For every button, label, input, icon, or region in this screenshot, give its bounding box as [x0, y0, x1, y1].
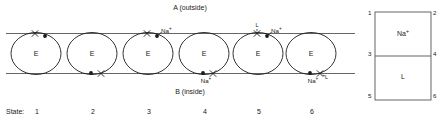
- legend-box: [375, 12, 431, 100]
- enzyme-symbol-3: E: [146, 50, 151, 57]
- state-number-1: 1: [35, 108, 39, 115]
- state-number-4: 4: [203, 108, 207, 115]
- transport-cycle-drawing: [0, 0, 442, 125]
- legend-top-cell-label: Na+: [397, 30, 409, 37]
- state-number-3: 3: [147, 108, 151, 115]
- enzyme-symbol-4: E: [202, 50, 207, 57]
- ion-label-top-3: Na+: [161, 28, 172, 34]
- legend-corner-3: 3: [368, 51, 371, 57]
- legend-corner-4: 4: [433, 51, 436, 57]
- state-number-2: 2: [91, 108, 95, 115]
- legend-corner-1: 1: [368, 10, 371, 16]
- states-layer: [11, 29, 336, 77]
- ion-label-top-5: Na+: [271, 28, 282, 34]
- enzyme-symbol-6: E: [309, 50, 314, 57]
- membrane-transport-diagram: A (outside) B (inside) State: 1 2 3 4 5 …: [0, 0, 442, 125]
- legend-corner-5: 5: [368, 93, 371, 99]
- enzyme-symbol-5: E: [256, 50, 261, 57]
- state-number-5: 5: [257, 108, 261, 115]
- bound-ion-dot-bottom-2: [89, 71, 93, 75]
- bound-ion-dot-bottom-6: [308, 71, 312, 75]
- bound-ion-dot-bottom-4: [201, 71, 205, 75]
- bound-ion-dot-top-1: [43, 34, 47, 38]
- legend-corner-6: 6: [433, 93, 436, 99]
- bound-ion-dot-top-5: [265, 34, 269, 38]
- enzyme-symbol-1: E: [34, 50, 39, 57]
- legend-corner-2: 2: [433, 10, 436, 16]
- state-number-6: 6: [310, 108, 314, 115]
- enzyme-symbol-2: E: [90, 50, 95, 57]
- ion-label-bottom-4: Na+: [201, 78, 212, 84]
- ligand-label-top-5: L: [255, 23, 258, 29]
- bound-ion-dot-top-3: [155, 34, 159, 38]
- ion-label-bottom-6: Na+: [308, 78, 319, 84]
- ligand-label-bottom-6: L: [325, 75, 328, 81]
- legend-bottom-cell-label: L: [401, 73, 405, 80]
